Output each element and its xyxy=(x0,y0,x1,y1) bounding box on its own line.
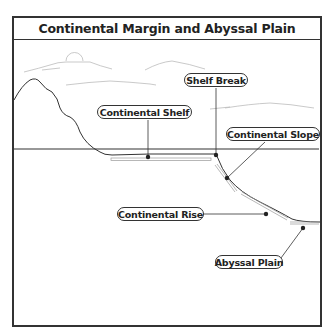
cloud-2 xyxy=(42,68,60,70)
terrain-profile xyxy=(14,79,320,222)
rise-bracket xyxy=(241,192,288,220)
label-continental-shelf: Continental Shelf xyxy=(97,105,192,119)
label-text: Continental Rise xyxy=(118,209,203,220)
shelf-bracket xyxy=(111,158,211,161)
dot-continental-rise xyxy=(264,212,268,216)
label-text: Abyssal Plain xyxy=(215,257,284,268)
dot-shelf-break xyxy=(214,153,218,157)
scene-svg xyxy=(0,0,331,336)
label-shelf-break: Shelf Break xyxy=(184,73,248,87)
dot-continental-slope xyxy=(225,176,229,180)
label-continental-rise: Continental Rise xyxy=(117,207,204,221)
plain-bracket xyxy=(290,222,319,224)
sun-icon xyxy=(66,52,83,61)
label-abyssal-plain: Abyssal Plain xyxy=(215,255,283,269)
label-text: Continental Shelf xyxy=(100,107,190,118)
dot-abyssal-plain xyxy=(301,226,305,230)
cloud-1 xyxy=(24,62,112,72)
label-text: Shelf Break xyxy=(186,75,246,86)
sky-decorations xyxy=(24,52,314,109)
leader-abyssal-plain xyxy=(281,228,303,258)
cloud-4 xyxy=(145,61,205,70)
label-text: Continental Slope xyxy=(227,129,319,140)
cloud-5 xyxy=(225,103,314,108)
leader-continental-slope xyxy=(227,142,265,178)
cloud-3 xyxy=(66,81,156,85)
label-continental-slope: Continental Slope xyxy=(226,127,320,141)
dot-continental-shelf xyxy=(146,155,150,159)
